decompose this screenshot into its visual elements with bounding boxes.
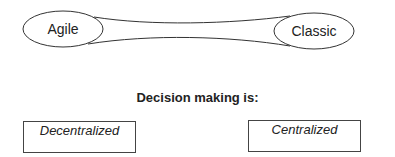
decentralized-box: Decentralized — [23, 121, 136, 153]
centralized-box: Centralized — [248, 120, 361, 152]
heading: Decision making is: — [0, 90, 395, 105]
agile-node: Agile — [23, 11, 103, 47]
classic-node: Classic — [274, 13, 354, 49]
